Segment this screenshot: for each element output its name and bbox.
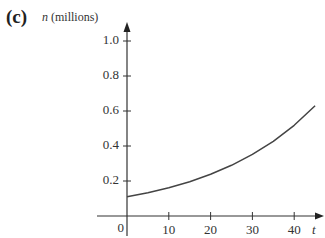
data-curve <box>127 106 315 197</box>
x-axis-arrow-icon <box>315 213 324 220</box>
y-axis-arrow-icon <box>124 22 131 32</box>
chart-plot-area <box>0 0 325 238</box>
